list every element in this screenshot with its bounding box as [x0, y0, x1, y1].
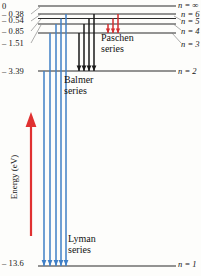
energy-arrow-head — [26, 112, 37, 127]
energy-label-339: – 3.39 — [2, 66, 24, 76]
level-label-n-5: n = 5 — [181, 16, 200, 26]
arrowhead-5-to-1 — [59, 260, 64, 266]
arrowhead-2-to-1 — [42, 260, 47, 266]
level-label-n-4: n = 4 — [181, 26, 200, 36]
balmer-series-label: Balmer series — [64, 75, 93, 96]
arrowhead-4-to-2 — [82, 66, 87, 72]
arrowhead-4-to-1 — [54, 260, 59, 266]
energy-axis-arrow — [26, 112, 37, 236]
leader-label-n-3 — [172, 33, 181, 43]
energy-label-151: – 1.51 — [2, 38, 24, 48]
level-label-n-2: n = 2 — [178, 66, 197, 76]
arrowhead-6-to-1 — [64, 260, 69, 266]
energy-label-054: – 0.54 — [2, 15, 24, 25]
energy-label-leaders — [31, 7, 41, 43]
leader-n-5 — [31, 14, 41, 21]
balmer-series-name: Balmer — [64, 74, 93, 85]
arrowhead-6-to-2 — [92, 66, 97, 72]
leader-label-n-4 — [174, 25, 181, 31]
lyman-series-name: Lyman — [68, 233, 96, 244]
energy-axis-title: Energy (eV) — [9, 142, 19, 212]
level-label-leaders — [172, 16, 181, 43]
lyman-series-label: Lyman series — [68, 234, 96, 255]
leader-n-6 — [31, 7, 40, 14]
balmer-transitions — [79, 14, 94, 71]
lyman-transitions — [44, 14, 66, 266]
leader-n-4 — [31, 19, 41, 31]
energy-level-diagram: 0 – 0.38 – 0.54 – 0.85 – 1.51 – 3.39 – 1… — [0, 0, 201, 276]
leader-n-3 — [31, 25, 41, 43]
lyman-series-word: series — [68, 244, 91, 255]
paschen-series-name: Paschen — [101, 32, 134, 43]
lyman-arrowheads — [42, 260, 69, 266]
arrowhead-5-to-2 — [87, 66, 92, 72]
paschen-series-label: Paschen series — [101, 33, 134, 54]
energy-label-136: – 13.6 — [2, 258, 24, 268]
level-label-n-1: n = 1 — [178, 259, 197, 269]
arrowhead-3-to-2 — [77, 66, 82, 72]
paschen-series-word: series — [101, 43, 124, 54]
level-label-n-3: n = 3 — [181, 39, 200, 49]
balmer-series-word: series — [64, 85, 87, 96]
energy-label-085: – 0.85 — [2, 26, 24, 36]
arrowhead-3-to-1 — [48, 260, 53, 266]
